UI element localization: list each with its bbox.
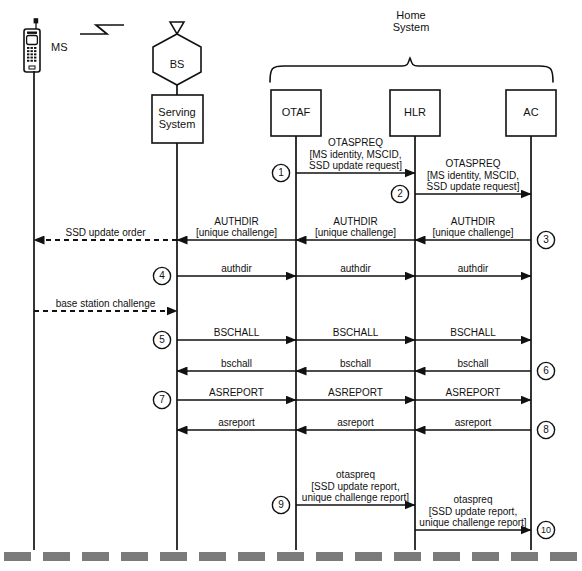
radio-zigzag-icon	[80, 25, 124, 34]
message-label: AUTHDIR	[451, 216, 495, 228]
message-label: ASREPORT	[328, 387, 383, 399]
strip-dash	[550, 552, 577, 561]
serving-system-node	[152, 95, 203, 550]
message-label: authdir	[458, 263, 489, 275]
step-number: 3	[543, 234, 549, 245]
message-label: otaspreq	[454, 494, 493, 506]
step-number: 1	[278, 167, 284, 178]
message-label: OTASPREQ	[328, 137, 383, 149]
message-label: AUTHDIR	[214, 216, 258, 228]
strip-dash	[199, 552, 226, 561]
strip-dash	[316, 552, 343, 561]
message-sublabel: [unique challenge]	[196, 227, 277, 239]
home-system-group-label: HomeSystem	[393, 9, 430, 33]
message-label: ASREPORT	[446, 387, 501, 399]
strip-dash	[472, 552, 499, 561]
strip-dash	[355, 552, 382, 561]
step-number: 10	[541, 525, 551, 535]
step-number: 5	[159, 334, 165, 345]
step-number: 2	[397, 188, 403, 199]
message-label: authdir	[221, 263, 252, 275]
strip-dash	[121, 552, 148, 561]
message-label: bschall	[457, 358, 488, 370]
message-sublabel: [MS identity, MSCID,SSD update request]	[309, 149, 402, 172]
step-number: 9	[278, 499, 284, 510]
message-label: OTASPREQ	[446, 158, 501, 170]
message-sublabel: [MS identity, MSCID,SSD update request]	[427, 170, 520, 193]
ac-node-label: AC	[523, 106, 538, 118]
message-label: base station challenge	[56, 298, 156, 310]
ac-node	[506, 90, 556, 550]
step-number: 4	[159, 270, 165, 281]
message-label: bschall	[340, 358, 371, 370]
message-sublabel: [SSD update report,unique challenge repo…	[302, 481, 409, 504]
strip-dash	[238, 552, 265, 561]
strip-dash	[82, 552, 109, 561]
step-number: 8	[543, 424, 549, 435]
home-system-brace	[270, 58, 553, 82]
message-label: asreport	[218, 417, 255, 429]
serving-system-node-label: ServingSystem	[158, 106, 195, 130]
message-label: otaspreq	[336, 469, 375, 481]
message-label: BSCHALL	[333, 327, 379, 339]
message-sublabel: [unique challenge]	[315, 227, 396, 239]
message-label: BSCHALL	[214, 327, 260, 339]
message-sublabel: [unique challenge]	[432, 227, 513, 239]
hlr-node-label: HLR	[404, 106, 426, 118]
otaf-node-label: OTAF	[282, 106, 311, 118]
ms-lifeline-group	[24, 18, 40, 550]
message-sublabel: [SSD update report,unique challenge repo…	[419, 506, 526, 529]
message-label: SSD update order	[65, 227, 145, 239]
strip-dash	[4, 552, 31, 561]
step-number: 6	[543, 365, 549, 376]
strip-dash	[433, 552, 460, 561]
bs-node-label: BS	[170, 58, 185, 70]
strip-dash	[511, 552, 538, 561]
strip-dash	[277, 552, 304, 561]
strip-dash	[160, 552, 187, 561]
message-label: bschall	[221, 358, 252, 370]
step-number: 7	[159, 394, 165, 405]
message-label: ASREPORT	[209, 387, 264, 399]
message-label: asreport	[337, 417, 374, 429]
strip-dash	[394, 552, 421, 561]
bottom-dashed-strip	[0, 552, 582, 561]
strip-dash	[43, 552, 70, 561]
message-label: AUTHDIR	[333, 216, 377, 228]
message-label: BSCHALL	[450, 327, 496, 339]
mobile-station-icon	[24, 18, 40, 72]
message-label: asreport	[455, 417, 492, 429]
message-label: authdir	[340, 263, 371, 275]
ms-node-label: MS	[51, 41, 68, 53]
sequence-diagram-canvas: 12345678910	[0, 0, 582, 571]
